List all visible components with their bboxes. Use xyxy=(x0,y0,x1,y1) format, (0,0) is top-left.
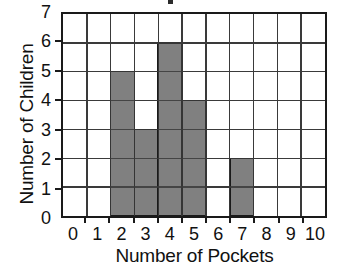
y-axis-tick-label: 0 xyxy=(21,209,51,227)
y-axis-tick-mark xyxy=(55,188,62,190)
y-axis-tick-label: 4 xyxy=(21,91,51,109)
x-axis-tick-mark xyxy=(181,218,183,223)
plot-inner xyxy=(63,14,325,216)
x-axis-tick-mark xyxy=(157,218,159,223)
plot-area xyxy=(61,12,327,218)
x-axis-tick-mark xyxy=(278,218,280,223)
x-axis-tick-mark xyxy=(302,218,304,223)
grid-lines-overlay xyxy=(63,14,325,216)
y-axis-tick-mark xyxy=(55,129,62,131)
x-axis-tick-mark xyxy=(205,218,207,223)
x-axis-tick-mark xyxy=(133,218,135,223)
x-axis-tick-label: 10 xyxy=(295,225,335,243)
y-axis-tick-label: 3 xyxy=(21,121,51,139)
cropped-title-mark xyxy=(168,0,173,4)
y-axis-tick-mark xyxy=(55,158,62,160)
y-axis-tick-mark xyxy=(55,70,62,72)
x-axis-tick-mark xyxy=(253,218,255,223)
y-axis-tick-label: 1 xyxy=(21,180,51,198)
y-axis-tick-label: 7 xyxy=(21,3,51,21)
y-axis-tick-mark xyxy=(55,40,62,42)
histogram-chart: Number of Children 01234567 012345678910… xyxy=(0,0,345,274)
x-axis-title: Number of Pockets xyxy=(61,245,328,267)
x-axis-tick-mark xyxy=(108,218,110,223)
x-axis-tick-mark xyxy=(229,218,231,223)
x-axis-tick-mark xyxy=(84,218,86,223)
y-axis-tick-label: 5 xyxy=(21,62,51,80)
y-axis-tick-label: 2 xyxy=(21,150,51,168)
y-axis-tick-mark xyxy=(55,99,62,101)
y-axis-tick-label: 6 xyxy=(21,32,51,50)
